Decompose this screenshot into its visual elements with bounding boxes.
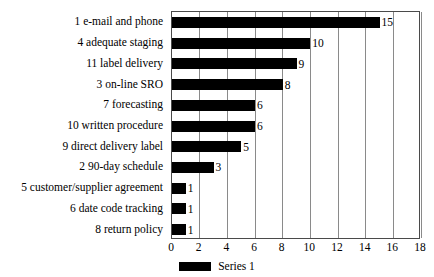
- y-axis-label: 8 return policy: [95, 223, 163, 235]
- x-axis-tick-16: 16: [387, 241, 399, 254]
- y-axis-label: 3 on-line SRO: [97, 78, 163, 90]
- x-axis-tick-18: 18: [414, 241, 426, 254]
- y-axis-label: 10 written procedure: [67, 119, 163, 131]
- bar-row: 15: [172, 17, 419, 28]
- bar-value-label: 10: [310, 38, 324, 49]
- bar-value-label: 6: [255, 100, 263, 111]
- bar-value-label: 6: [255, 121, 263, 132]
- bar: [172, 100, 255, 111]
- x-axis-tick-8: 8: [279, 241, 285, 254]
- bar: [172, 79, 283, 90]
- y-axis-label: 5 customer/supplier agreement: [21, 181, 163, 193]
- chart-title: [171, 0, 420, 1]
- y-axis-category-labels: 1 e-mail and phone4 adequate staging11 l…: [0, 11, 167, 239]
- bar: [172, 162, 214, 173]
- bar: [172, 224, 186, 235]
- legend-label-series-1: Series 1: [218, 260, 255, 272]
- y-axis-label: 2 90-day schedule: [79, 160, 163, 172]
- y-axis-label: 9 direct delivery label: [62, 140, 163, 152]
- bar: [172, 58, 297, 69]
- bar-row: 1: [172, 224, 419, 235]
- y-axis-label: 4 adequate staging: [77, 36, 163, 48]
- x-axis-tick-12: 12: [331, 241, 343, 254]
- bar: [172, 141, 241, 152]
- x-axis-tick-10: 10: [304, 241, 316, 254]
- bar-row: 5: [172, 141, 419, 152]
- bar: [172, 203, 186, 214]
- y-axis-label: 6 date code tracking: [70, 202, 163, 214]
- bar-value-label: 8: [283, 79, 291, 90]
- bar-row: 10: [172, 38, 419, 49]
- bar-chart: 1 e-mail and phone4 adequate staging11 l…: [0, 0, 434, 277]
- y-axis-label: 11 label delivery: [86, 57, 163, 69]
- x-axis-tick-2: 2: [196, 241, 202, 254]
- x-axis-tick-4: 4: [223, 241, 229, 254]
- plot-area: 1510986653111: [171, 11, 420, 239]
- bar-value-label: 3: [214, 162, 222, 173]
- chart-legend: Series 1: [0, 258, 434, 274]
- bar: [172, 38, 310, 49]
- bar: [172, 183, 186, 194]
- bar-value-label: 1: [186, 183, 194, 194]
- bar-row: 1: [172, 183, 419, 194]
- bar: [172, 121, 255, 132]
- bar-value-label: 5: [241, 141, 249, 152]
- x-axis-tick-14: 14: [359, 241, 371, 254]
- x-axis-tick-labels: 024681012141618: [171, 241, 420, 255]
- bar-value-label: 1: [186, 203, 194, 214]
- bar-value-label: 9: [297, 58, 305, 69]
- bar-row: 9: [172, 58, 419, 69]
- y-axis-label: 1 e-mail and phone: [75, 15, 163, 27]
- y-axis-label: 7 forecasting: [103, 98, 163, 110]
- gridline-18: [421, 12, 422, 238]
- bar-row: 6: [172, 121, 419, 132]
- bar-row: 3: [172, 162, 419, 173]
- x-axis-tick-0: 0: [168, 241, 174, 254]
- bar-row: 1: [172, 203, 419, 214]
- x-axis-tick-6: 6: [251, 241, 257, 254]
- legend-swatch-series-1: [179, 262, 211, 271]
- bar-value-label: 1: [186, 224, 194, 235]
- bar: [172, 17, 380, 28]
- bar-row: 6: [172, 100, 419, 111]
- bar-value-label: 15: [380, 17, 394, 28]
- bar-row: 8: [172, 79, 419, 90]
